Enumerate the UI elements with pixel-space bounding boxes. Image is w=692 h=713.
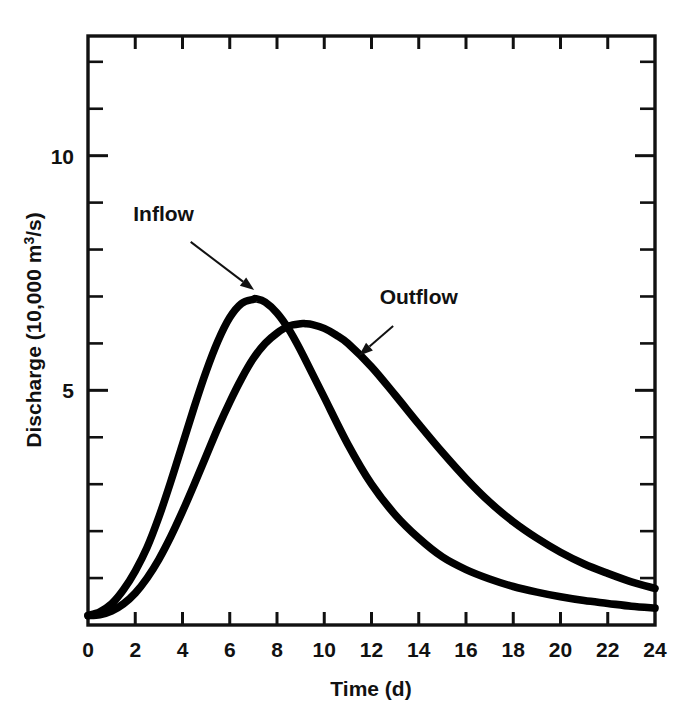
x-tick-label: 0 [82, 638, 94, 661]
series-label-inflow: Inflow [133, 202, 194, 225]
y-axis-ticks-right [635, 62, 655, 578]
x-tick-label: 22 [596, 638, 619, 661]
y-axis-title-prefix: Discharge (10,000 m [22, 245, 45, 448]
y-axis-tick-labels: 510 [51, 145, 75, 403]
x-tick-label: 16 [454, 638, 477, 661]
y-axis-title: Discharge (10,000 m3/s) [21, 212, 45, 447]
x-axis-ticks-bottom [135, 612, 608, 625]
x-tick-label: 14 [407, 638, 431, 661]
y-tick-label: 5 [62, 379, 74, 402]
x-tick-label: 4 [177, 638, 189, 661]
x-axis-title: Time (d) [330, 677, 411, 700]
y-axis-title-suffix: /s) [22, 212, 45, 237]
x-tick-label: 18 [502, 638, 526, 661]
x-axis-tick-labels: 024681012141618202224 [82, 638, 667, 661]
annotation-leader-inflow [191, 242, 243, 282]
series-annotations: InflowOutflow [133, 202, 458, 355]
x-tick-label: 8 [271, 638, 283, 661]
x-tick-label: 2 [129, 638, 141, 661]
y-axis-title-superscript: 3 [21, 237, 37, 245]
x-tick-label: 12 [360, 638, 383, 661]
series-label-outflow: Outflow [380, 285, 459, 308]
x-axis-ticks-top [135, 36, 608, 49]
x-tick-label: 20 [549, 638, 572, 661]
x-tick-label: 6 [224, 638, 236, 661]
y-tick-label: 10 [51, 145, 74, 168]
y-axis-ticks-left [88, 62, 108, 578]
annotation-leader-outflow [369, 326, 393, 347]
hydrograph-figure: 024681012141618202224 510 InflowOutflow … [0, 0, 692, 713]
annotation-arrowhead-inflow [240, 277, 254, 290]
x-tick-label: 24 [643, 638, 667, 661]
chart-canvas: 024681012141618202224 510 InflowOutflow … [0, 0, 692, 713]
x-tick-label: 10 [313, 638, 336, 661]
